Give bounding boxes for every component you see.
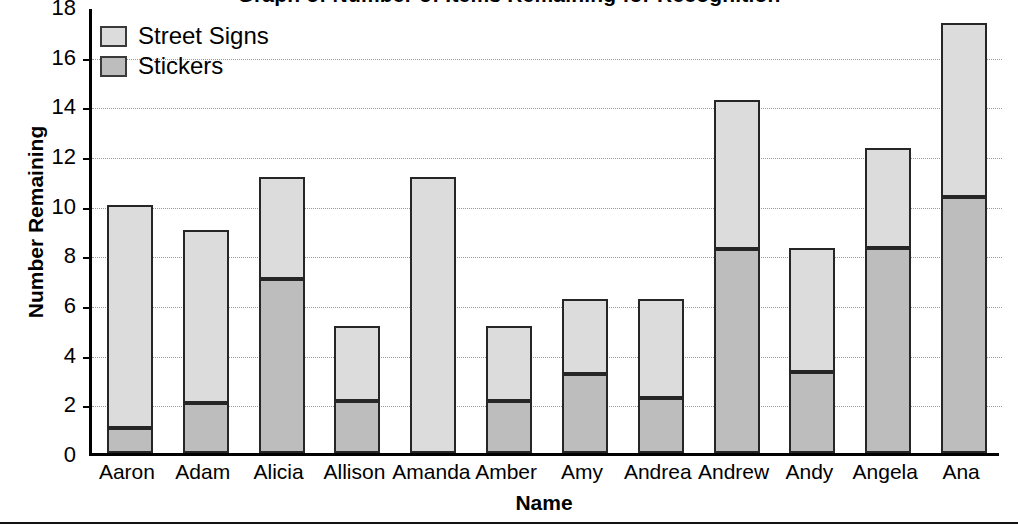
bar-group[interactable]: [941, 6, 987, 453]
bar-segment-street-signs[interactable]: [107, 205, 153, 429]
y-axis-tick-label: 12: [6, 146, 76, 168]
legend-label: Stickers: [138, 54, 223, 78]
bar-segment-street-signs[interactable]: [789, 248, 835, 372]
x-axis-tick-label: Amber: [468, 460, 544, 484]
bar-segment-stickers[interactable]: [941, 197, 987, 453]
bar-group[interactable]: [714, 6, 760, 453]
bar-segment-stickers[interactable]: [789, 372, 835, 453]
bar-group[interactable]: [638, 6, 684, 453]
bar-group[interactable]: [865, 6, 911, 453]
bar-segment-street-signs[interactable]: [941, 23, 987, 197]
bar-segment-stickers[interactable]: [638, 398, 684, 453]
x-axis-tick-label: Amy: [544, 460, 620, 484]
bar-segment-street-signs[interactable]: [562, 299, 608, 374]
legend: Street SignsStickers: [100, 24, 269, 78]
stacked-bar-chart: Graph of Number of Items Remaining for R…: [0, 0, 1018, 525]
bar-segment-street-signs[interactable]: [410, 177, 456, 453]
y-axis-tick-label: 2: [6, 394, 76, 416]
bar-segment-street-signs[interactable]: [638, 299, 684, 398]
x-axis-tick-label: Aaron: [89, 460, 165, 484]
x-axis-tick-label: Ana: [923, 460, 999, 484]
bar-segment-street-signs[interactable]: [486, 326, 532, 401]
x-axis-tick-label: Angela: [847, 460, 923, 484]
bar-group[interactable]: [562, 6, 608, 453]
bar-segment-stickers[interactable]: [183, 403, 229, 453]
bar-segment-stickers[interactable]: [562, 374, 608, 453]
x-axis-tick-label: Andrea: [620, 460, 696, 484]
legend-label: Street Signs: [138, 24, 269, 48]
x-axis-tick-label: Andy: [772, 460, 848, 484]
bar-segment-street-signs[interactable]: [259, 177, 305, 279]
x-axis-tick-label: Adam: [165, 460, 241, 484]
y-axis-tick-label: 8: [6, 245, 76, 267]
bar-segment-street-signs[interactable]: [865, 148, 911, 249]
y-axis-tick-label: 10: [6, 196, 76, 218]
y-axis-tick-label: 4: [6, 345, 76, 367]
x-axis-tick-label: Amanda: [392, 460, 468, 484]
y-axis-tick-label: 14: [6, 96, 76, 118]
bar-segment-stickers[interactable]: [865, 248, 911, 453]
legend-item[interactable]: Stickers: [100, 54, 269, 78]
page-bottom-rule: [0, 522, 1018, 524]
bar-segment-stickers[interactable]: [107, 428, 153, 453]
y-axis-tick-label: 6: [6, 295, 76, 317]
bar-group[interactable]: [410, 6, 456, 453]
bar-segment-street-signs[interactable]: [714, 100, 760, 249]
x-axis-tick-label: Alicia: [241, 460, 317, 484]
bar-segment-street-signs[interactable]: [334, 326, 380, 401]
bar-segment-street-signs[interactable]: [183, 230, 229, 404]
legend-item[interactable]: Street Signs: [100, 24, 269, 48]
y-axis-tick-label: 16: [6, 47, 76, 69]
bar-group[interactable]: [789, 6, 835, 453]
bar-group[interactable]: [486, 6, 532, 453]
bar-segment-stickers[interactable]: [486, 401, 532, 453]
legend-swatch-icon: [100, 56, 127, 77]
bar-segment-stickers[interactable]: [714, 249, 760, 453]
bar-segment-stickers[interactable]: [334, 401, 380, 453]
legend-swatch-icon: [100, 26, 127, 47]
x-axis-tick-label: Allison: [317, 460, 393, 484]
y-axis-tick-label: 0: [6, 444, 76, 466]
bar-segment-stickers[interactable]: [259, 279, 305, 453]
y-axis-tick-label: 18: [6, 0, 76, 19]
x-axis-tick-label: Andrew: [696, 460, 772, 484]
bar-group[interactable]: [334, 6, 380, 453]
x-axis-title: Name: [89, 491, 999, 515]
